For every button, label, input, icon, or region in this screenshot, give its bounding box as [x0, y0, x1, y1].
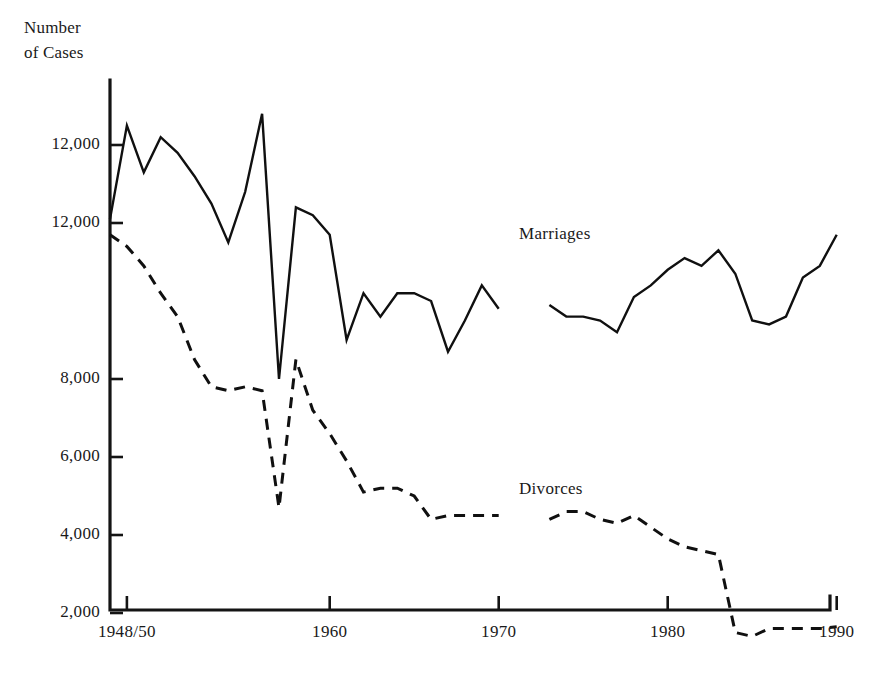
y-tick-label: 2,000 [14, 602, 100, 622]
x-tick-label: 1980 [650, 622, 685, 642]
x-tick-label: 1960 [312, 622, 347, 642]
y-tick-label: 12,000 [14, 134, 100, 154]
y-tick-label: 4,000 [14, 524, 100, 544]
axis-lines [110, 80, 830, 610]
y-tick-label: 12,000 [14, 212, 100, 232]
series-label-divorces: Divorces [519, 479, 583, 499]
series-line-marriages [549, 235, 836, 333]
x-tick-label: 1948/50 [98, 622, 156, 642]
y-axis-ticks [110, 145, 123, 613]
x-tick-label: 1990 [819, 622, 854, 642]
series-line-divorces [110, 235, 499, 520]
data-series [110, 114, 837, 637]
x-tick-label: 1970 [481, 622, 516, 642]
y-tick-label: 6,000 [14, 446, 100, 466]
series-label-marriages: Marriages [519, 224, 591, 244]
series-line-marriages [110, 114, 499, 379]
series-line-divorces [549, 512, 836, 637]
chart-figure: Number of Cases 12,00012,0008,0006,0004,… [0, 0, 873, 681]
axes [110, 80, 837, 613]
chart-canvas [0, 0, 873, 681]
y-tick-label: 8,000 [14, 368, 100, 388]
